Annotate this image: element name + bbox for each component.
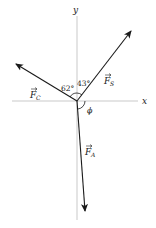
angle-arc-phi [78, 101, 85, 109]
svg-text:S: S [110, 80, 114, 87]
svg-text:C: C [36, 94, 41, 101]
vector-fc-arrow [16, 64, 77, 101]
vector-fa-label: F A [84, 145, 96, 159]
angle-label-phi: ϕ [87, 106, 93, 115]
angle-arc-43 [77, 93, 82, 95]
x-axis-label: x [142, 96, 147, 106]
vector-fa-arrow [77, 101, 85, 211]
vector-fs-label: F S [103, 74, 114, 88]
svg-text:A: A [90, 151, 96, 158]
angle-label-43: 43° [77, 79, 91, 88]
y-axis-label: y [72, 5, 79, 15]
angle-label-62: 62° [61, 84, 75, 93]
force-diagram: x y 62° 43° ϕ F C F S F A [0, 0, 156, 228]
angle-arc-62 [70, 93, 77, 97]
vector-fs-arrow [77, 31, 131, 101]
vector-fc-label: F C [29, 88, 41, 102]
